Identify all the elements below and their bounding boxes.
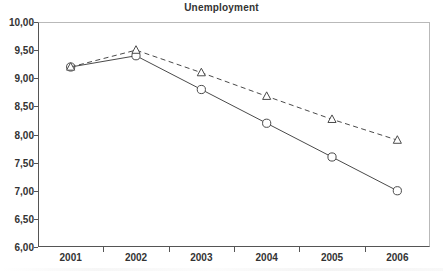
series-circle-open xyxy=(67,52,402,195)
series-triangle-open xyxy=(67,46,402,144)
data-point-circle xyxy=(393,187,401,195)
data-point-triangle xyxy=(197,68,205,76)
scan-artifact xyxy=(0,268,443,271)
data-point-circle xyxy=(197,85,205,93)
chart-container: Unemployment 10,009,509,008,508,007,507,… xyxy=(0,0,443,274)
data-point-triangle xyxy=(263,92,271,100)
chart-data-layer xyxy=(38,22,430,247)
data-point-triangle xyxy=(132,46,140,54)
series-line xyxy=(71,50,398,140)
series-line xyxy=(71,56,398,191)
data-point-circle xyxy=(328,153,336,161)
x-axis-tick-mark xyxy=(365,247,366,252)
x-axis-tick-mark xyxy=(234,247,235,252)
x-axis-tick-mark xyxy=(169,247,170,252)
x-axis-tick-mark xyxy=(299,247,300,252)
data-point-circle xyxy=(263,119,271,127)
x-axis-tick-mark xyxy=(103,247,104,252)
